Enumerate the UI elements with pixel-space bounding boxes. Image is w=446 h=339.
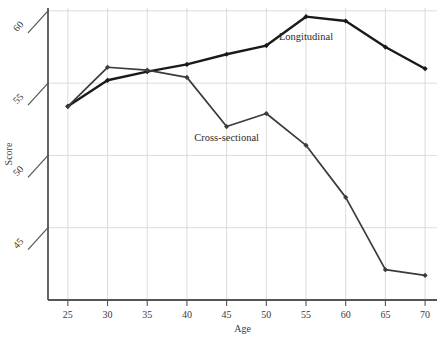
series-annotation: Longitudinal [279,31,333,42]
x-tick-label: 40 [182,309,192,320]
x-tick-label: 30 [103,309,113,320]
x-tick-label: 50 [261,309,271,320]
x-tick-label: 55 [301,309,311,320]
x-tick-label: 70 [420,309,430,320]
chart-canvas: 25303540455055606570 45505560 Longitudin… [0,0,446,339]
x-tick-label: 25 [63,309,73,320]
x-axis-title: Age [234,323,251,334]
x-tick-label: 65 [380,309,390,320]
y-axis-title: Score [3,142,14,165]
x-tick-label: 35 [142,309,152,320]
chart-background [0,0,446,339]
x-tick-label: 60 [341,309,351,320]
x-tick-label: 45 [222,309,232,320]
line-chart: 25303540455055606570 45505560 Longitudin… [0,0,446,339]
series-annotation: Cross-sectional [194,132,259,143]
